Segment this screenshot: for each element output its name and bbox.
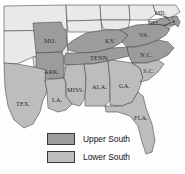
- upper-lower-south-map-figure: .sh { stroke: #4a4a4a; stroke-width: 0.6…: [0, 0, 185, 174]
- state-label-fla: FLA.: [134, 115, 148, 121]
- state-label-ky: KY.: [105, 38, 115, 44]
- lower-south-swatch: [47, 151, 75, 163]
- state-label-del: DEL.: [148, 21, 161, 27]
- state-label-nc: N.C.: [140, 52, 153, 58]
- legend-item-upper-south: Upper South: [47, 131, 147, 147]
- state-label-ark: ARK.: [44, 69, 59, 75]
- legend-label-upper-south: Upper South: [83, 134, 130, 144]
- state-label-va: VA.: [139, 32, 149, 38]
- state-label-md: MD.: [155, 11, 166, 17]
- outside-state-indiana: [100, 5, 130, 20]
- upper-south-swatch: [47, 133, 75, 145]
- state-label-tenn: TENN.: [90, 55, 109, 61]
- state-label-sc: S.C.: [143, 68, 154, 74]
- outside-state-illinois-south: [67, 20, 102, 32]
- legend-label-lower-south: Lower South: [83, 152, 130, 162]
- legend-item-lower-south: Lower South: [47, 149, 147, 165]
- state-label-tex: TEX.: [16, 101, 30, 107]
- state-label-ala: ALA.: [92, 84, 107, 90]
- state-label-la: LA.: [52, 97, 62, 103]
- map-legend: Upper South Lower South: [47, 131, 147, 167]
- state-label-ga: GA.: [119, 83, 130, 89]
- outside-state-iowa: [66, 5, 101, 21]
- state-label-mo: MO.: [44, 38, 56, 44]
- state-label-miss: MISS.: [67, 87, 84, 93]
